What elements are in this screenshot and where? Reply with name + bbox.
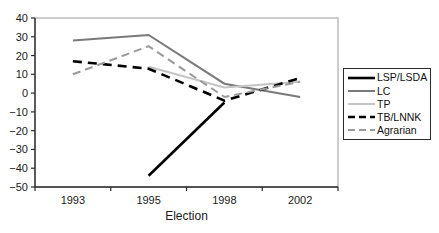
- y-tick-label: 30: [16, 31, 28, 43]
- legend-label: TP: [377, 99, 390, 110]
- legend-line-sample: [348, 101, 375, 107]
- legend-label: TB/LNNK: [377, 112, 421, 123]
- y-tick-label: −40: [9, 162, 28, 174]
- y-tick-label: 0: [22, 87, 28, 99]
- legend-item: LSP/LSDA: [348, 71, 428, 84]
- legend-item: TP: [348, 97, 428, 110]
- legend-item: LC: [348, 84, 428, 97]
- legend-item: TB/LNNK: [348, 111, 428, 124]
- legend-line-sample: [348, 114, 375, 120]
- y-tick-label: −30: [9, 143, 28, 155]
- legend-label: LSP/LSDA: [377, 72, 427, 83]
- line-chart-figure: 403020100−10−20−30−40−501993199519982002…: [0, 0, 439, 233]
- x-tick-label: 1993: [61, 194, 85, 206]
- x-tick-label: 1995: [136, 194, 160, 206]
- y-tick-label: 40: [16, 12, 28, 24]
- y-tick-label: −10: [9, 106, 28, 118]
- legend-line-sample: [348, 127, 375, 133]
- y-tick-label: −50: [9, 181, 28, 193]
- legend-label: Agrarian: [377, 125, 417, 136]
- legend-label: LC: [377, 86, 390, 97]
- x-axis-title: Election: [165, 209, 208, 223]
- legend-item: Agrarian: [348, 124, 428, 137]
- y-tick-label: −20: [9, 125, 28, 137]
- legend-line-sample: [348, 75, 375, 81]
- series-line-tb-lnnk: [73, 61, 300, 100]
- series-line-agrarian: [73, 46, 300, 97]
- plot-frame: [35, 18, 338, 187]
- x-tick-label: 1998: [212, 194, 236, 206]
- series-line-lsp-lsda: [149, 103, 225, 176]
- chart-legend: LSP/LSDALCTPTB/LNNKAgrarian: [343, 68, 431, 140]
- legend-line-sample: [348, 88, 375, 94]
- y-tick-label: 20: [16, 50, 28, 62]
- y-tick-label: 10: [16, 68, 28, 80]
- x-tick-label: 2002: [288, 194, 312, 206]
